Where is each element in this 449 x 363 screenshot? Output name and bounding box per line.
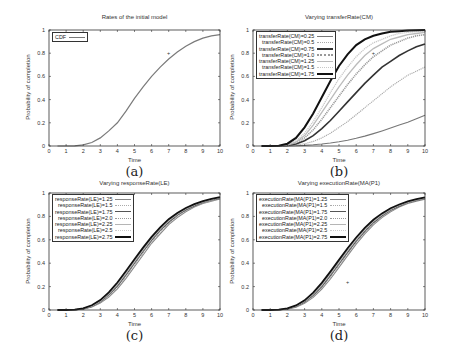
legend-label: executionRate(MA(P1)=2.75 (259, 234, 327, 240)
chart-legend: executionRate(MA(P1)=1.25executionRate(M… (256, 194, 349, 242)
svg-text:2: 2 (286, 312, 289, 318)
legend-swatch (330, 230, 346, 231)
svg-text:0.6: 0.6 (241, 237, 249, 243)
svg-text:5: 5 (337, 312, 340, 318)
legend-entry: executionRate(MA(P1)=2.75 (259, 234, 346, 240)
legend-swatch (330, 199, 346, 200)
x-axis-label: Time (253, 321, 425, 327)
svg-text:8: 8 (389, 312, 392, 318)
svg-text:4: 4 (320, 312, 323, 318)
chart-panel-d: Varying executionRate(MA(P1) Probability… (0, 0, 449, 363)
legend-swatch (330, 236, 346, 238)
svg-text:1: 1 (246, 190, 249, 196)
legend-swatch (330, 205, 346, 206)
legend-swatch (330, 224, 346, 225)
svg-text:0: 0 (251, 312, 254, 318)
svg-text:0.8: 0.8 (241, 213, 249, 219)
plot-area: 01234567891000.20.40.60.81+ (0, 0, 449, 363)
legend-swatch (330, 211, 346, 212)
svg-text:1: 1 (269, 312, 272, 318)
svg-text:10: 10 (422, 312, 428, 318)
svg-text:+: + (346, 279, 349, 285)
svg-text:9: 9 (406, 312, 409, 318)
svg-text:7: 7 (372, 312, 375, 318)
svg-text:0: 0 (246, 307, 249, 313)
svg-text:3: 3 (303, 312, 306, 318)
svg-text:0.2: 0.2 (241, 284, 249, 290)
figure-caption: (d) (253, 328, 425, 343)
svg-text:0.4: 0.4 (241, 260, 249, 266)
svg-text:6: 6 (355, 312, 358, 318)
legend-swatch (330, 218, 346, 219)
